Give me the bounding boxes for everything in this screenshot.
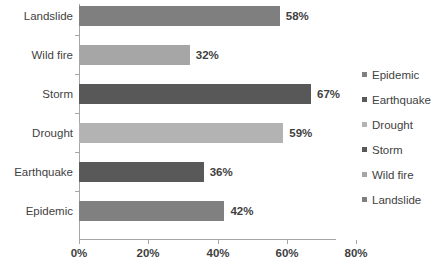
legend-label: Storm bbox=[372, 144, 403, 156]
x-axis-tick-label: 0% bbox=[71, 247, 88, 259]
legend-swatch-icon bbox=[362, 122, 367, 127]
bar-landslide[interactable] bbox=[79, 6, 280, 26]
bar-wild-fire[interactable] bbox=[79, 45, 190, 65]
category-label: Storm bbox=[1, 84, 73, 104]
category-axis-labels: Landslide Wild fire Storm Drought Earthq… bbox=[0, 6, 73, 238]
x-axis-tick bbox=[148, 240, 149, 244]
y-axis-tick bbox=[75, 152, 79, 153]
legend-item-wild-fire[interactable]: Wild fire bbox=[362, 162, 439, 187]
y-axis-tick bbox=[75, 113, 79, 114]
x-axis-tick-label: 80% bbox=[344, 247, 367, 259]
bar-value-label: 59% bbox=[283, 127, 312, 139]
bar-value-label: 36% bbox=[204, 166, 233, 178]
legend-label: Epidemic bbox=[372, 69, 419, 81]
bar-value-label: 67% bbox=[311, 88, 340, 100]
legend-swatch-icon bbox=[362, 147, 367, 152]
x-axis-tick bbox=[79, 240, 80, 244]
legend-label: Landslide bbox=[372, 194, 421, 206]
plot-area: 58% 32% 67% 59% 36% 42% bbox=[79, 6, 356, 238]
bar-earthquake[interactable] bbox=[79, 162, 204, 182]
bar-epidemic[interactable] bbox=[79, 201, 224, 221]
category-label: Landslide bbox=[1, 6, 73, 26]
category-label: Epidemic bbox=[1, 201, 73, 221]
bar-chart: Landslide Wild fire Storm Drought Earthq… bbox=[0, 0, 439, 271]
legend-item-earthquake[interactable]: Earthquake bbox=[362, 87, 439, 112]
x-axis-tick bbox=[218, 240, 219, 244]
legend-item-epidemic[interactable]: Epidemic bbox=[362, 62, 439, 87]
legend-label: Wild fire bbox=[372, 169, 414, 181]
legend-swatch-icon bbox=[362, 72, 367, 77]
category-label: Drought bbox=[1, 123, 73, 143]
y-axis-tick bbox=[75, 35, 79, 36]
bar-value-label: 32% bbox=[190, 49, 219, 61]
category-label: Earthquake bbox=[1, 162, 73, 182]
legend-swatch-icon bbox=[362, 172, 367, 177]
legend-swatch-icon bbox=[362, 197, 367, 202]
category-label: Wild fire bbox=[1, 45, 73, 65]
bar-value-label: 58% bbox=[280, 10, 309, 22]
legend-item-landslide[interactable]: Landslide bbox=[362, 187, 439, 212]
x-axis-line bbox=[79, 239, 336, 240]
legend-label: Earthquake bbox=[372, 94, 431, 106]
x-axis-tick bbox=[287, 240, 288, 244]
bar-drought[interactable] bbox=[79, 123, 283, 143]
legend-item-storm[interactable]: Storm bbox=[362, 137, 439, 162]
x-axis-tick bbox=[356, 240, 357, 244]
x-axis-tick-label: 20% bbox=[136, 247, 159, 259]
bar-value-label: 42% bbox=[224, 205, 253, 217]
legend-label: Drought bbox=[372, 119, 413, 131]
x-axis-tick-label: 60% bbox=[275, 247, 298, 259]
chart-legend: Epidemic Earthquake Drought Storm Wild f… bbox=[362, 62, 439, 212]
bar-storm[interactable] bbox=[79, 84, 311, 104]
y-axis-tick bbox=[75, 191, 79, 192]
x-axis-tick-label: 40% bbox=[206, 247, 229, 259]
legend-swatch-icon bbox=[362, 97, 367, 102]
y-axis-tick bbox=[75, 74, 79, 75]
legend-item-drought[interactable]: Drought bbox=[362, 112, 439, 137]
